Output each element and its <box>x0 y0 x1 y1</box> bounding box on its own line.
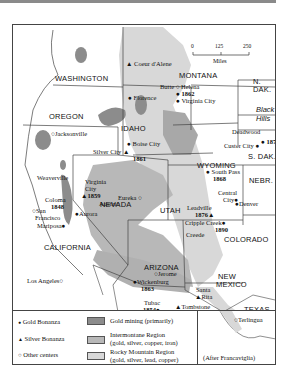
place-creede: Creede <box>186 232 204 239</box>
place-florence: ● Florence <box>128 95 156 102</box>
other-centers-icon: ○ <box>18 352 22 358</box>
scale-tick-125: 125 <box>215 44 223 50</box>
state-utah: UTAH <box>160 207 181 215</box>
place-year-1874: ● 1874 <box>261 139 276 146</box>
state-oregon: OREGON <box>49 113 84 121</box>
gold-mining-klamath <box>35 130 51 150</box>
legend-gold-mining: Gold mining (primarily) <box>110 317 173 324</box>
place-jerome: ○Jerome <box>154 271 177 278</box>
place-year-1848: 1848 <box>51 204 64 211</box>
place-terlingua: ○Terlingua <box>234 317 263 324</box>
place-year-1863: 1863 <box>141 286 154 293</box>
gold-mining-washington <box>75 47 87 63</box>
place-year-1859: ▲1859 <box>81 193 100 200</box>
place-deadwood: Deadwood <box>232 129 260 136</box>
state-n-dak: N.DAK. <box>253 78 271 93</box>
scale-tick-0: 0 <box>191 44 194 50</box>
place-year-1861: 1861 <box>133 156 146 163</box>
place-year-1868: 1868 <box>213 176 226 183</box>
coastline <box>25 30 83 275</box>
top-rule <box>0 0 276 3</box>
rocky-mountain-swatch <box>87 352 105 360</box>
legend-box: ● Gold Bonanza ▲ Silver Bonanza ○ Other … <box>12 310 198 365</box>
place-eureka: Eureka ○ <box>118 195 142 202</box>
scale-bar <box>193 52 249 55</box>
map-frame-lower: ○Terlingua (After Francaviglia) <box>198 310 276 365</box>
map-frame: 0 125 250 Miles WASHINGTON OREGON IDAHO … <box>12 24 276 311</box>
legend-intermontane-1: Intermontane Region <box>110 331 165 338</box>
scale-unit: Miles <box>213 58 227 64</box>
place-santa-rita-2: ▲Rita <box>195 294 212 301</box>
place-virginia-city-mt: ● Virginia City <box>176 98 215 105</box>
legend-other-centers: ○ Other centers <box>18 351 58 358</box>
state-washington: WASHINGTON <box>55 75 108 83</box>
legend-rocky-1: Rocky Mountain Region <box>110 348 174 355</box>
place-year-1890: 1890 <box>215 227 228 234</box>
state-california: CALIFORNIA <box>44 244 91 252</box>
place-mariposa: Mariposa● <box>37 223 66 230</box>
place-austin: Austin○ <box>99 201 120 208</box>
source-credit: (After Francaviglia) <box>203 354 255 361</box>
intermontane-swatch <box>87 336 105 344</box>
place-weaverville: Weaverville <box>37 175 68 182</box>
legend-intermontane-2: (gold, silver, copper, iron) <box>110 339 178 346</box>
place-boise-city: ● Boise City <box>127 141 160 148</box>
scale-tick-250: 250 <box>243 44 251 50</box>
legend-gold-bonanza: ● Gold Bonanza <box>18 318 60 325</box>
place-san-francisco-2: Francisco <box>35 215 60 222</box>
legend-rocky-2: (gold, silver, lead, copper) <box>110 356 178 363</box>
place-silver-city: Silver City ▲ <box>93 149 129 156</box>
place-jacksonville: ○Jacksonville <box>51 131 87 138</box>
state-colorado: COLORADO <box>224 236 269 244</box>
place-denver: ●Denver <box>235 201 258 208</box>
place-year-1876: 1876▲ <box>195 212 214 219</box>
legend-silver-bonanza: ▲ Silver Bonanza <box>18 335 64 342</box>
state-montana: MONTANA <box>179 72 217 80</box>
region-black-hills-1: Black <box>256 106 274 114</box>
legend: ● Gold Bonanza ▲ Silver Bonanza ○ Other … <box>12 310 276 365</box>
silver-bonanza-icon: ▲ <box>18 337 23 342</box>
place-los-angeles: Los Angeles○ <box>27 278 63 285</box>
region-black-hills-2: Hills <box>256 115 270 123</box>
place-coeur-dalene: ▲ Coeur d'Alene <box>126 61 172 68</box>
gold-mining-small1 <box>60 160 66 170</box>
place-custer-city: Custer City ● <box>224 143 259 150</box>
state-new-mexico-2: MEXICO <box>216 281 247 289</box>
state-nebr: NEBR. <box>249 177 273 185</box>
state-s-dak: S. DAK. <box>248 153 276 161</box>
state-idaho: IDAHO <box>121 125 146 133</box>
gold-mining-swatch <box>87 317 105 325</box>
gold-bonanza-icon: ● <box>18 320 21 325</box>
place-aurora: ●Aurora <box>75 211 97 218</box>
